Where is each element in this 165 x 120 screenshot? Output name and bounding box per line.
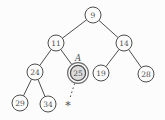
tree-edge-14-19 [106,49,119,66]
tree-edge-9-14 [99,20,118,37]
node-label-11: 11 [51,39,61,48]
node-label-34: 34 [43,100,53,109]
node-label-19: 19 [96,69,106,78]
tree-edge-11-24 [40,49,52,65]
node-label-29: 29 [15,99,25,108]
tree-edge-24-29 [23,79,31,96]
null-pointer-icon: * [65,99,71,112]
tree-edge-24-34 [38,79,45,96]
binary-tree-diagram: *91114242519282934A [0,0,165,120]
node-label-28: 28 [141,70,151,79]
node-label-24: 24 [30,68,40,77]
node-label-25: 25 [73,69,83,78]
null-pointer-edge [70,83,75,98]
tree-svg: *91114242519282934A [0,0,165,120]
tree-edge-11-25 [61,49,72,64]
node-label-9: 9 [91,11,96,20]
annotation-label: A [74,53,81,63]
node-label-14: 14 [119,39,129,48]
tree-edge-9-11 [62,20,86,38]
tree-edge-14-28 [129,50,142,68]
